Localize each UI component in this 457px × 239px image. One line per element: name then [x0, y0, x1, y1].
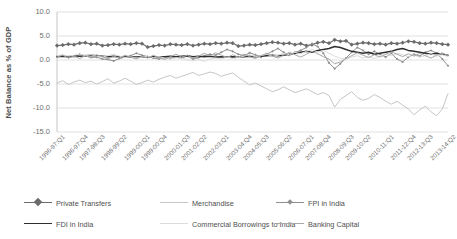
data-point-marker — [253, 43, 257, 47]
legend-row: Private TransfersMerchandiseFPI in India — [0, 193, 456, 213]
data-point-marker — [435, 41, 439, 45]
data-point-marker — [265, 41, 269, 45]
legend-label: Banking Capital — [308, 220, 359, 229]
data-point-marker — [191, 43, 195, 47]
data-point-marker — [225, 41, 229, 45]
series-merchandise — [57, 72, 448, 116]
data-point-marker — [236, 44, 240, 48]
data-point-marker — [202, 42, 206, 46]
y-axis-tick: 10.0 — [16, 8, 50, 16]
legend-label: FDI in India — [56, 220, 93, 229]
data-point-marker — [180, 43, 184, 47]
data-point-marker — [112, 42, 116, 46]
data-point-marker — [378, 42, 382, 46]
data-point-marker — [134, 41, 138, 45]
data-point-marker — [401, 41, 405, 45]
data-point-marker — [231, 41, 235, 45]
series-banking-capital — [57, 51, 448, 63]
data-point-marker — [168, 42, 172, 46]
data-point-marker — [270, 40, 274, 44]
y-axis-tick: -5.0 — [16, 80, 50, 88]
data-point-marker — [423, 42, 427, 46]
data-point-marker — [185, 42, 189, 46]
data-point-marker — [89, 42, 93, 46]
data-point-marker — [440, 42, 444, 46]
data-point-marker — [157, 43, 161, 47]
data-point-marker — [106, 43, 110, 47]
data-point-marker — [259, 42, 263, 46]
x-axis-tick-labels: 1996-97:Q11996-97:Q41997-98:Q31998-99:Q2… — [57, 133, 448, 189]
y-axis-tick: -15.0 — [16, 128, 50, 136]
data-point-marker — [384, 43, 388, 47]
data-point-marker — [163, 43, 167, 47]
data-point-marker — [372, 42, 376, 46]
data-point-marker — [361, 41, 365, 45]
data-point-marker — [287, 41, 291, 45]
series-line — [57, 40, 448, 47]
data-point-marker — [123, 42, 127, 46]
legend-swatch-icon — [24, 219, 52, 229]
data-point-marker — [61, 43, 65, 47]
legend-swatch-icon — [160, 198, 188, 208]
data-point-marker — [395, 42, 399, 46]
data-point-marker — [78, 41, 82, 45]
data-point-marker — [219, 42, 223, 46]
data-point-marker — [66, 42, 70, 46]
legend-swatch-icon — [160, 219, 188, 229]
data-point-marker — [197, 43, 201, 47]
series-private-transfers — [55, 38, 450, 49]
legend-item-private-transfers[interactable]: Private Transfers — [24, 193, 111, 213]
data-point-marker — [100, 43, 104, 47]
legend-item-merchandise[interactable]: Merchandise — [160, 193, 234, 213]
legend-item-fdi-in-india[interactable]: FDI in India — [24, 214, 93, 234]
legend-swatch-icon — [276, 219, 304, 229]
data-point-marker — [389, 41, 393, 45]
data-point-marker — [355, 42, 359, 46]
data-point-marker — [174, 43, 178, 47]
y-axis-tick: -10.0 — [16, 104, 50, 112]
data-point-marker — [338, 39, 342, 43]
data-point-marker — [412, 40, 416, 44]
data-point-marker — [95, 42, 99, 46]
legend-swatch-icon — [24, 198, 52, 208]
legend-swatch-icon — [276, 198, 304, 208]
data-point-marker — [446, 43, 450, 47]
data-point-marker — [367, 41, 371, 45]
data-point-marker — [242, 43, 246, 47]
y-axis-title-label: Net Balance as % of GDP — [5, 26, 14, 118]
data-point-marker — [282, 42, 286, 46]
series-canvas — [57, 12, 448, 132]
data-point-marker — [151, 44, 155, 48]
legend-item-banking-capital[interactable]: Banking Capital — [276, 214, 359, 234]
data-point-marker — [316, 41, 320, 45]
data-point-marker — [72, 43, 76, 47]
legend-row: FDI in IndiaCommercial Borrowings to Ind… — [0, 214, 456, 234]
legend-item-fpi-in-india[interactable]: FPI in India — [276, 193, 345, 213]
legend-label: Merchandise — [192, 199, 234, 208]
data-point-marker — [55, 43, 59, 47]
data-point-marker — [214, 41, 218, 45]
data-point-marker — [406, 39, 410, 43]
data-point-marker — [117, 43, 121, 47]
data-point-marker — [248, 43, 252, 47]
data-point-marker — [321, 40, 325, 44]
legend-label: FPI in India — [308, 199, 345, 208]
y-axis-tick: 5.0 — [16, 32, 50, 40]
data-point-marker — [293, 43, 297, 47]
data-point-marker — [418, 41, 422, 45]
data-point-marker — [208, 42, 212, 46]
data-point-marker — [429, 41, 433, 45]
chart-legend: Private TransfersMerchandiseFPI in India… — [0, 193, 456, 237]
data-point-marker — [83, 41, 87, 45]
legend-label: Private Transfers — [56, 199, 111, 208]
y-axis-tick: 0.0 — [16, 56, 50, 64]
y-axis-title: Net Balance as % of GDP — [2, 12, 16, 132]
series-line — [57, 72, 448, 116]
series-line — [57, 51, 448, 63]
plot-area — [57, 12, 448, 132]
data-point-marker — [276, 41, 280, 45]
data-point-marker — [129, 42, 133, 46]
data-point-marker — [299, 42, 303, 46]
